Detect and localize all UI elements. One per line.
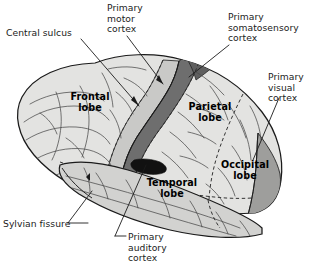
callout-primary-auditory-cortex: Primary auditory cortex — [128, 232, 167, 264]
lobe-label-parietal: Parietal lobe — [182, 101, 238, 123]
lobe-label-frontal: Frontal lobe — [62, 91, 118, 113]
callout-primary-motor-cortex: Primary motor cortex — [107, 3, 143, 35]
lobe-label-occipital: Occipital lobe — [217, 159, 273, 181]
lobe-label-temporal: Temporal lobe — [143, 177, 201, 199]
callout-sylvian-fissure: Sylvian fissure — [3, 219, 70, 230]
callout-primary-somatosensory-cortex: Primary somatosensory cortex — [228, 12, 299, 44]
leader-sylvian-fissure — [68, 191, 92, 223]
callout-primary-visual-cortex: Primary visual cortex — [268, 72, 304, 104]
callout-central-sulcus: Central sulcus — [6, 28, 72, 39]
brain-anatomy-figure: Central sulcus Primary motor cortex Prim… — [0, 0, 313, 270]
